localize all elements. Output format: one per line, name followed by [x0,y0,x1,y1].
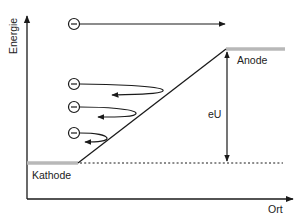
potential-ramp [78,49,226,163]
electron-escaping [69,19,226,30]
cathode-label: Kathode [32,169,71,181]
electron-path [80,107,136,117]
energy-diagram: Energie Ort eU Anode Kathode [0,0,305,221]
electron-reflected-2 [69,102,137,118]
anode-label: Anode [237,54,268,66]
y-axis-label: Energie [7,18,19,54]
electron-reflected-1 [69,79,164,96]
electron-path [80,84,163,95]
eu-label: eU [208,108,221,120]
x-axis-label: Ort [268,203,283,215]
electron-path [80,133,107,142]
electron-reflected-3 [69,128,108,143]
